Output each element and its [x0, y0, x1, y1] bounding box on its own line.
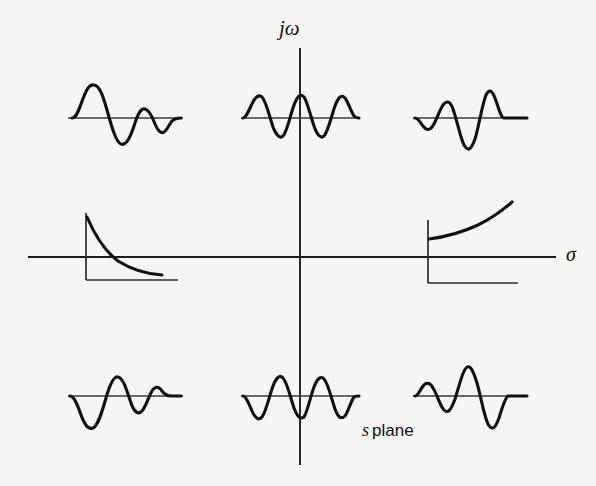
s-plane-figure: jω σ splane	[0, 0, 596, 486]
waveform-top-center	[243, 95, 359, 137]
s-plane-label: splane	[362, 421, 414, 439]
response-top-left	[68, 85, 183, 144]
waveform-bottom-right	[415, 367, 527, 428]
sigma-axis-label: σ	[566, 244, 576, 264]
response-middle-left	[86, 213, 178, 280]
jomega-axis-label: jω	[279, 18, 300, 39]
exponential-growth-curve	[429, 202, 512, 239]
exponential-decay-curve	[87, 217, 162, 275]
figure-canvas	[0, 0, 596, 486]
response-middle-right	[428, 202, 518, 283]
response-top-right	[413, 91, 528, 149]
waveform-top-left	[72, 85, 181, 144]
s-plane-label-symbol: s	[362, 420, 372, 440]
response-bottom-left	[68, 377, 183, 428]
waveform-bottom-left	[70, 377, 181, 428]
s-plane-label-word: plane	[372, 421, 414, 440]
waveform-top-right	[415, 91, 527, 149]
waveform-bottom-center	[243, 376, 359, 418]
response-bottom-right	[413, 367, 528, 428]
